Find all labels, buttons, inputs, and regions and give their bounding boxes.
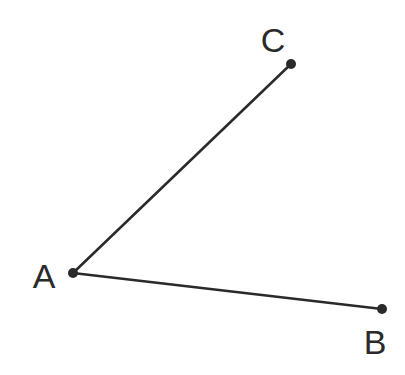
diagram-svg: A B C (0, 0, 405, 375)
segment-ac (73, 64, 291, 273)
label-c: C (261, 21, 286, 59)
label-a: A (33, 257, 56, 295)
point-c (286, 59, 296, 69)
segment-ab (73, 273, 382, 309)
point-a (68, 268, 78, 278)
point-b (377, 304, 387, 314)
label-b: B (364, 323, 387, 361)
angle-diagram: A B C (0, 0, 405, 375)
